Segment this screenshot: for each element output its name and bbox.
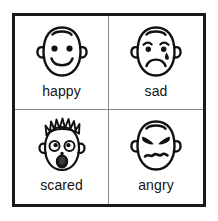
emotion-chart-sheet: happy sad: [0, 0, 218, 221]
emotion-label-happy: happy: [42, 84, 81, 98]
emotion-cell-scared[interactable]: scared: [15, 110, 109, 204]
emotion-cell-happy[interactable]: happy: [15, 16, 109, 110]
emotion-cell-angry[interactable]: angry: [109, 110, 203, 204]
emotion-label-sad: sad: [145, 84, 168, 98]
emotion-label-scared: scared: [40, 178, 83, 192]
emotion-cell-sad[interactable]: sad: [109, 16, 203, 110]
happy-face-icon: [24, 21, 100, 83]
scared-face-icon: [24, 115, 100, 177]
emotion-chart-frame: happy sad: [12, 13, 206, 207]
angry-face-icon: [118, 115, 194, 177]
sad-face-icon: [118, 21, 194, 83]
emotion-label-angry: angry: [138, 178, 174, 192]
